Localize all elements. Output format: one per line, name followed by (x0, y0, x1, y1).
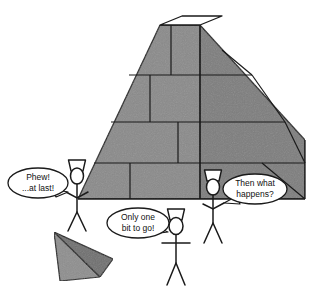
left-worker-head (71, 168, 84, 184)
left-bubble: Phew! ...at last! (8, 168, 68, 198)
left-bubble-line-2: ...at last! (22, 183, 54, 193)
right-bubble-line-1: Then what (235, 178, 275, 188)
cartoon-canvas: Phew! ...at last! Only one bit to go! Th… (0, 0, 320, 296)
center-bubble: Only one bit to go! (107, 208, 169, 238)
right-bubble-line-2: happens? (236, 189, 274, 199)
right-worker-head (207, 179, 220, 195)
center-worker-head (169, 218, 183, 235)
center-bubble-line-1: Only one (121, 212, 155, 222)
cartoon-scene: Phew! ...at last! Only one bit to go! Th… (0, 0, 320, 296)
left-bubble-line-1: Phew! (26, 172, 50, 182)
right-bubble: Then what happens? (223, 174, 287, 204)
center-bubble-line-2: bit to go! (122, 223, 155, 233)
